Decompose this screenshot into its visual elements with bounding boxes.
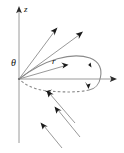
origin-point — [18, 78, 20, 80]
figure-container: z θ r — [0, 0, 124, 153]
ray-out-3-arrow-icon — [61, 63, 68, 69]
ray-in-1 — [50, 94, 75, 123]
z-axis — [16, 6, 22, 143]
ray-out-2-arrow-icon — [76, 32, 83, 39]
ray-out-1 — [19, 32, 54, 79]
ray-out-1-arrow-icon — [51, 28, 58, 36]
outgoing-rays — [19, 28, 83, 80]
ray-in-2 — [58, 110, 80, 137]
cardioid-loop — [19, 56, 101, 94]
z-axis-label: z — [23, 4, 28, 14]
incoming-rays — [41, 91, 81, 149]
scattering-diagram: z θ r — [0, 0, 124, 153]
angle-label: θ — [11, 57, 16, 68]
loop-arrow-upper-icon — [85, 62, 91, 67]
horizontal-axis — [19, 76, 117, 82]
loop-arrow-right-icon — [85, 82, 91, 89]
ray-in-3 — [44, 126, 62, 148]
ray-out-3 — [19, 66, 64, 79]
radius-label: r — [52, 56, 56, 66]
loop-lower-dashed — [19, 79, 89, 92]
ray-in-3-arrow-icon — [41, 123, 48, 130]
